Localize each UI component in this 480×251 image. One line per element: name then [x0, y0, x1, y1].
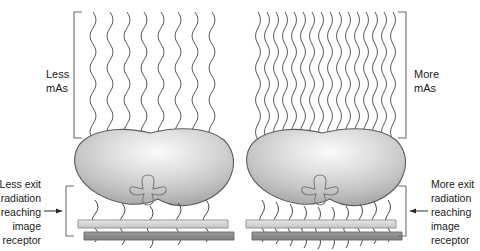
- exit-caption-right-line4: image: [431, 220, 460, 232]
- exit-caption-left-line5: receptor: [2, 234, 41, 246]
- exit-caption-right-line5: receptor: [431, 234, 470, 246]
- exit-caption-right-line3: reaching: [431, 206, 471, 218]
- mas-label-right-line1: More: [414, 68, 439, 80]
- exit-caption-left-line1: Less exit: [0, 178, 41, 190]
- radiography-mas-diagram: Less mAs: [0, 0, 480, 251]
- mas-label-left-line1: Less: [46, 68, 70, 80]
- exit-caption-left-line2: radiation: [1, 192, 41, 204]
- image-receptor-plate-right: [246, 220, 396, 228]
- exit-caption-left-line4: image: [12, 220, 41, 232]
- exit-caption-left-line3: reaching: [1, 206, 41, 218]
- diagram-canvas: Less mAs: [0, 0, 480, 251]
- receptor-base-plate-left: [84, 232, 234, 240]
- mas-label-left-line2: mAs: [46, 82, 69, 94]
- background: [0, 0, 480, 251]
- exit-caption-right-line1: More exit: [431, 178, 474, 190]
- exit-caption-right-line2: radiation: [431, 192, 471, 204]
- receptor-base-plate-right: [252, 232, 402, 240]
- mas-label-right-line2: mAs: [414, 82, 437, 94]
- image-receptor-plate-left: [78, 220, 228, 228]
